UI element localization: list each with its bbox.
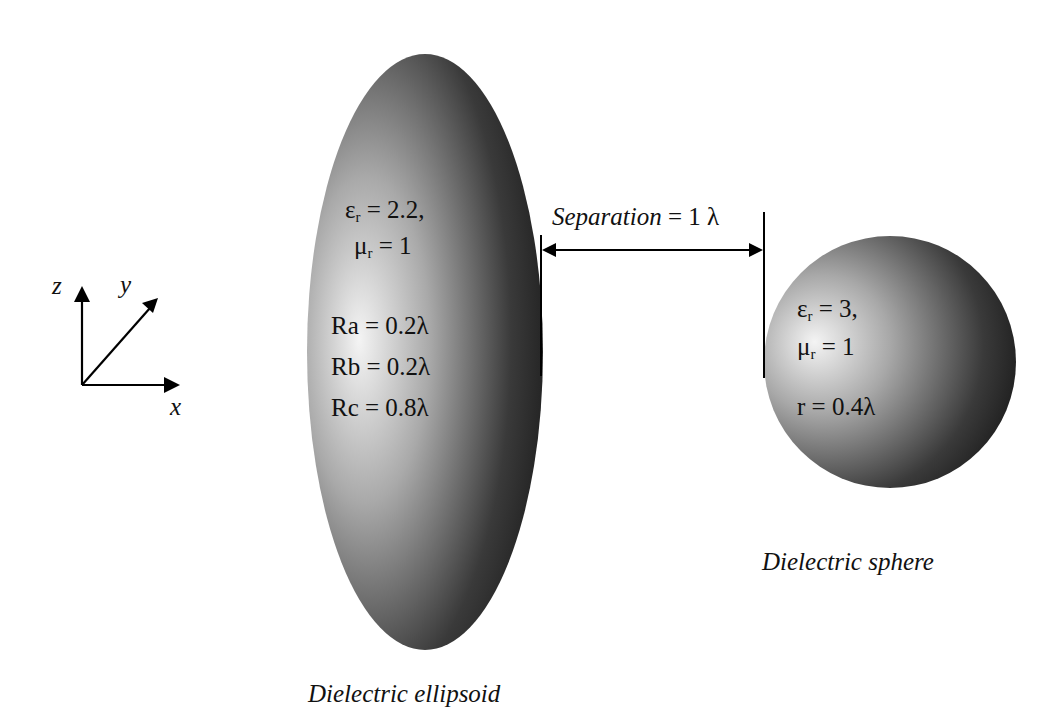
separation-label: Separation = 1 λ: [552, 203, 719, 231]
x-axis-label: x: [170, 393, 181, 421]
sphere-permeability: μr = 1: [797, 333, 855, 361]
ellipsoid-permittivity: εr = 2.2,: [345, 196, 425, 224]
sphere-permittivity: εr = 3,: [797, 295, 858, 323]
ellipsoid-caption: Dielectric ellipsoid: [308, 680, 500, 708]
ellipsoid-rc: Rc = 0.8λ: [331, 394, 429, 422]
separation-dimension-line: [541, 212, 764, 378]
diagram-canvas: [0, 0, 1062, 725]
dielectric-ellipsoid-shape: [307, 54, 543, 650]
ellipsoid-ra: Ra = 0.2λ: [331, 312, 429, 340]
ellipsoid-permeability: μr = 1: [354, 232, 412, 260]
ellipsoid-rb: Rb = 0.2λ: [331, 353, 430, 381]
sphere-radius: r = 0.4λ: [797, 393, 875, 421]
sphere-caption: Dielectric sphere: [762, 548, 934, 576]
dielectric-sphere-shape: [764, 236, 1016, 488]
z-axis-label: z: [52, 272, 62, 300]
y-axis-label: y: [120, 271, 131, 299]
coordinate-axes-icon: [74, 286, 180, 393]
